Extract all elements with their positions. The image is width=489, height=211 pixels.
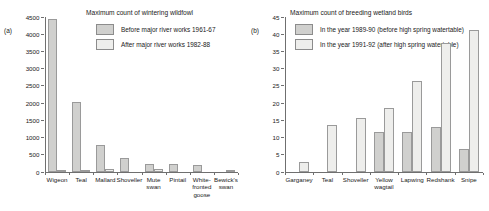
bar — [402, 132, 412, 172]
bar — [57, 170, 66, 172]
bar — [105, 169, 114, 172]
plot-area-b: 051015202530354045 GarganeyTealShoveller… — [245, 0, 489, 211]
bar-group — [93, 17, 117, 172]
bar — [145, 164, 154, 172]
bar — [154, 169, 163, 172]
bar — [96, 145, 105, 172]
bar — [81, 170, 90, 172]
bar-group — [285, 17, 313, 172]
bar — [412, 81, 422, 172]
bar-group — [342, 17, 370, 172]
x-tick-mark — [93, 173, 94, 176]
bar — [48, 19, 57, 172]
bar — [459, 149, 469, 172]
x-tick-mark — [214, 173, 215, 176]
plot-area-a: 050010001500200025003000350040004500 Wig… — [0, 0, 245, 211]
bar-group — [313, 17, 341, 172]
bar-group — [370, 17, 398, 172]
x-tick-mark — [483, 173, 484, 176]
chart-panel-b: (b) Maximum count of breeding wetland bi… — [245, 0, 489, 211]
bar — [120, 158, 129, 172]
bar-group — [142, 17, 166, 172]
bar-group — [455, 17, 483, 172]
x-tick-mark — [370, 173, 371, 176]
bar-group — [214, 17, 238, 172]
x-tick-mark — [238, 173, 239, 176]
bar-group — [398, 17, 426, 172]
x-tick-mark — [142, 173, 143, 176]
x-tick-mark — [69, 173, 70, 176]
x-tick-mark — [166, 173, 167, 176]
bar — [193, 165, 202, 172]
bar — [299, 162, 309, 172]
x-axis-label: Snipe — [448, 176, 489, 183]
x-tick-mark — [398, 173, 399, 176]
x-tick-mark — [313, 173, 314, 176]
x-tick-mark — [190, 173, 191, 176]
bar — [327, 125, 337, 172]
x-tick-mark — [455, 173, 456, 176]
x-tick-mark — [285, 173, 286, 176]
bar-group — [166, 17, 190, 172]
bar — [169, 164, 178, 172]
bar — [431, 127, 441, 172]
bar — [226, 170, 235, 172]
chart-panel-a: (a) Maximum count of wintering wildfowl … — [0, 0, 245, 211]
bar — [374, 132, 384, 172]
x-tick-mark — [117, 173, 118, 176]
x-tick-mark — [426, 173, 427, 176]
x-tick-mark — [45, 173, 46, 176]
bar — [72, 102, 81, 172]
bar-group — [426, 17, 454, 172]
bar — [441, 43, 451, 172]
bar-group — [190, 17, 214, 172]
bar-group — [45, 17, 69, 172]
bar-group — [117, 17, 141, 172]
x-axis-label: Bewick's swan — [208, 176, 244, 191]
bar — [469, 30, 479, 172]
x-tick-mark — [342, 173, 343, 176]
bar-group — [69, 17, 93, 172]
bar — [356, 118, 366, 172]
bar — [384, 108, 394, 172]
figure-wildfowl-wetland-birds: (a) Maximum count of wintering wildfowl … — [0, 0, 489, 211]
